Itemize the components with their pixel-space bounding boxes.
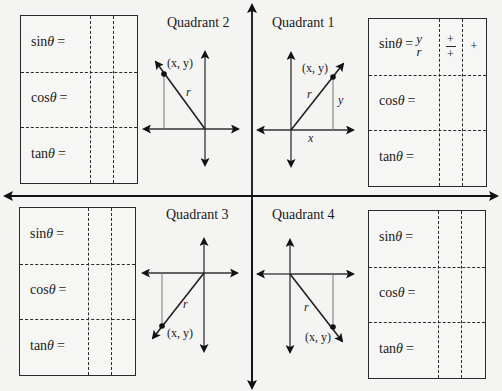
q1-radius-label: r bbox=[307, 87, 312, 101]
theta-symbol: θ bbox=[49, 282, 56, 297]
table-row-sin: sinθ= bbox=[21, 16, 137, 72]
table-bottom-left: sinθ=cosθ=tanθ= bbox=[19, 207, 136, 376]
q2-point-label: (x, y) bbox=[167, 56, 193, 70]
table-row-cos: cosθ= bbox=[369, 267, 485, 323]
quadrant-2-graph: (x, y) r bbox=[144, 52, 238, 165]
theta-symbol: θ bbox=[395, 36, 402, 51]
theta-symbol: θ bbox=[46, 226, 53, 241]
equals-sign: = bbox=[58, 146, 66, 161]
table-row-sin: sinθ=yr+++ bbox=[369, 19, 486, 75]
theta-symbol: θ bbox=[396, 341, 403, 356]
function-name: tan bbox=[379, 341, 396, 356]
theta-symbol: θ bbox=[47, 338, 54, 353]
sin-label: sinθ= bbox=[31, 34, 65, 50]
table-row-tan: tanθ= bbox=[369, 322, 485, 378]
function-name: cos bbox=[30, 282, 49, 297]
q3-point bbox=[159, 323, 165, 329]
sign-ratio-cell: ++ bbox=[439, 33, 462, 62]
sign-denominator: + bbox=[446, 48, 456, 60]
quadrant-3-title: Quadrant 3 bbox=[166, 207, 229, 223]
function-name: sin bbox=[379, 36, 395, 51]
cos-label: cosθ= bbox=[30, 282, 66, 298]
q1-point-label: (x, y) bbox=[302, 61, 328, 75]
tan-label: tanθ= bbox=[379, 341, 414, 357]
q1-y-label: y bbox=[337, 93, 344, 107]
tan-label: tanθ= bbox=[379, 149, 414, 165]
quadrant-3-graph: (x, y) r bbox=[143, 239, 237, 351]
equals-sign: = bbox=[60, 90, 68, 105]
table-top-left: sinθ=cosθ=tanθ= bbox=[20, 15, 138, 184]
table-top-right: sinθ=yr+++cosθ=tanθ= bbox=[368, 18, 487, 187]
theta-symbol: θ bbox=[48, 146, 55, 161]
q3-point-label: (x, y) bbox=[167, 326, 193, 340]
quadrant-1-title: Quadrant 1 bbox=[272, 15, 335, 31]
function-name: cos bbox=[379, 93, 398, 108]
q4-point bbox=[330, 324, 336, 330]
theta-symbol: θ bbox=[395, 229, 402, 244]
sign-result-cell: + bbox=[462, 39, 486, 54]
q3-radius-label: r bbox=[183, 297, 188, 311]
quadrant-4-title: Quadrant 4 bbox=[272, 207, 335, 223]
sin-label: sinθ=yr bbox=[379, 32, 422, 58]
table-row-cos: cosθ= bbox=[20, 264, 135, 320]
table-row-tan: tanθ= bbox=[21, 127, 137, 183]
sin-label: sinθ= bbox=[30, 226, 64, 242]
function-name: sin bbox=[379, 229, 395, 244]
ratio-fraction: yr bbox=[416, 32, 422, 58]
table-row-tan: tanθ= bbox=[20, 319, 135, 375]
equals-sign: = bbox=[408, 93, 416, 108]
cos-label: cosθ= bbox=[379, 93, 415, 109]
fraction-numerator: y bbox=[416, 32, 422, 45]
theta-symbol: θ bbox=[396, 149, 403, 164]
sign-numerator: + bbox=[446, 33, 456, 45]
equals-sign: = bbox=[57, 34, 65, 49]
table-bottom-right: sinθ=cosθ=tanθ= bbox=[368, 210, 486, 379]
function-name: sin bbox=[31, 34, 47, 49]
q2-point bbox=[161, 71, 167, 77]
q1-point bbox=[330, 74, 336, 80]
function-name: cos bbox=[379, 285, 398, 300]
quadrant-4-graph: (x, y) r bbox=[258, 240, 353, 352]
q4-point-label: (x, y) bbox=[305, 330, 331, 344]
equals-sign: = bbox=[405, 36, 413, 51]
equals-sign: = bbox=[59, 282, 67, 297]
theta-symbol: θ bbox=[50, 90, 57, 105]
cos-label: cosθ= bbox=[31, 90, 67, 106]
theta-symbol: θ bbox=[398, 93, 405, 108]
function-name: tan bbox=[31, 146, 48, 161]
sin-label: sinθ= bbox=[379, 229, 413, 245]
equals-sign: = bbox=[405, 229, 413, 244]
table-row-cos: cosθ= bbox=[369, 75, 486, 131]
fraction-denominator: r bbox=[416, 45, 422, 58]
quadrant-2-title: Quadrant 2 bbox=[167, 15, 230, 31]
table-row-cos: cosθ= bbox=[21, 72, 137, 128]
table-row-sin: sinθ= bbox=[20, 208, 135, 264]
tan-label: tanθ= bbox=[30, 338, 65, 354]
function-name: cos bbox=[31, 90, 50, 105]
table-row-tan: tanθ= bbox=[369, 130, 486, 186]
equals-sign: = bbox=[56, 226, 64, 241]
function-name: sin bbox=[30, 226, 46, 241]
function-name: tan bbox=[379, 149, 396, 164]
equals-sign: = bbox=[408, 285, 416, 300]
function-name: tan bbox=[30, 338, 47, 353]
equals-sign: = bbox=[406, 149, 414, 164]
equals-sign: = bbox=[406, 341, 414, 356]
quadrant-1-graph: (x, y) r y x bbox=[258, 53, 353, 166]
theta-symbol: θ bbox=[47, 34, 54, 49]
theta-symbol: θ bbox=[398, 285, 405, 300]
cos-label: cosθ= bbox=[379, 285, 415, 301]
tan-label: tanθ= bbox=[31, 146, 66, 162]
equals-sign: = bbox=[57, 338, 65, 353]
table-row-sin: sinθ= bbox=[369, 211, 485, 267]
q1-x-label: x bbox=[307, 131, 314, 145]
q4-radius-label: r bbox=[304, 300, 309, 314]
q2-radius-label: r bbox=[186, 85, 191, 99]
